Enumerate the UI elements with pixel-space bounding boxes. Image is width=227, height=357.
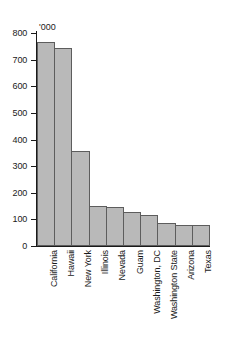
y-axis-tick-label: 300 — [1, 162, 27, 171]
x-axis-category-label: New York — [84, 250, 93, 287]
y-axis-tick-label: 200 — [1, 189, 27, 198]
x-axis-category-label: Washington State — [170, 250, 179, 319]
x-axis-category-label: Guam — [136, 250, 145, 274]
y-axis-tick-label: 600 — [1, 82, 27, 91]
bar — [192, 225, 210, 246]
y-axis-tick-label: 500 — [1, 109, 27, 118]
x-axis-category-label: Texas — [204, 250, 213, 273]
bar — [157, 223, 175, 246]
plot-area — [36, 33, 209, 246]
x-axis-category-label: Washington, DC — [153, 250, 162, 314]
x-axis-category-label: Arizona — [187, 250, 196, 280]
bar — [106, 207, 124, 246]
y-axis-tick-label: 400 — [1, 136, 27, 145]
bar — [37, 42, 55, 246]
bar-chart-figure: '000 0100200300400500600700800 Californi… — [0, 0, 227, 357]
y-axis-tick — [31, 246, 36, 247]
x-axis-category-label: Nevada — [118, 250, 127, 280]
bar — [175, 225, 193, 246]
bar — [123, 212, 141, 246]
bar — [89, 206, 107, 246]
bar — [54, 48, 72, 246]
x-axis-category-label: Illinois — [101, 250, 110, 274]
y-axis-tick-label: 700 — [1, 56, 27, 65]
y-axis-unit-label: '000 — [39, 23, 56, 32]
y-axis-tick-label: 100 — [1, 215, 27, 224]
y-axis-tick-label: 0 — [1, 242, 27, 251]
bar — [71, 151, 89, 246]
y-axis-tick-label: 800 — [1, 29, 27, 38]
x-axis-line — [36, 246, 210, 247]
bar — [140, 215, 158, 246]
x-axis-category-label: California — [50, 250, 59, 287]
x-axis-category-label: Hawaii — [67, 250, 76, 276]
